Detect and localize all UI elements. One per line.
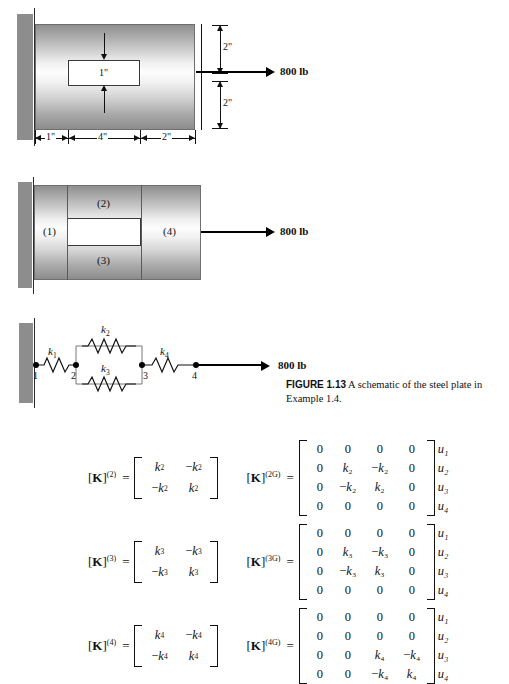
- matrix-bracket-left: [299, 440, 307, 516]
- matrix-cell: 0: [363, 581, 397, 600]
- cutout-arrow-line-upper: [104, 33, 105, 55]
- matrix-cell: k3: [142, 541, 176, 562]
- matrix-bracket-left: [134, 541, 142, 583]
- matrix-cell: 0: [307, 440, 333, 459]
- matrix-cell: 0: [363, 608, 397, 627]
- displacement-vector-3: u₁u₂u₃u₄: [438, 608, 449, 684]
- dim-label-bottom-2in: 2": [222, 98, 233, 108]
- global-stiffness-name-1: [K](2G): [246, 470, 280, 486]
- matrix-cell: −k₄: [363, 665, 397, 684]
- dim-chain-seg3-right: [189, 135, 195, 141]
- equals-sign-local-1: =: [122, 470, 129, 486]
- matrix-cell: −k₃: [363, 543, 397, 562]
- matrix-cell: −k₂: [333, 478, 363, 497]
- dim-ext-x3: [195, 130, 196, 144]
- equation-row-1: [K](2)=k2−k2−k2k2[K](2G)=00000k₂−k₂00−k₂…: [88, 440, 448, 516]
- equation-row-3: [K](4)=k4−k4−k4k4[K](4G)=0000000000k₄−k₄…: [88, 608, 448, 684]
- matrix-cell: 0: [307, 478, 333, 497]
- matrix-cell: k2: [176, 478, 210, 499]
- cutout-dimension-label: 1": [98, 68, 109, 78]
- spring-node-3: [139, 362, 145, 368]
- matrix-cell: 0: [363, 524, 397, 543]
- plate-cutout-middle: [67, 218, 141, 246]
- equals-sign-local-3: =: [122, 638, 129, 654]
- global-matrix-wrapper-2: 00000k₃−k₃00−k₃k₃00000u₁u₂u₃u₄: [299, 524, 449, 600]
- matrix-cell: −k3: [176, 541, 210, 562]
- matrix-cell: 0: [307, 646, 333, 665]
- matrix-cell: 0: [397, 581, 427, 600]
- matrix-cells: 00000k₃−k₃00−k₃k₃00000: [307, 524, 427, 600]
- matrix-cell: 0: [333, 665, 363, 684]
- matrix-cell: 0: [397, 459, 427, 478]
- load-label-middle: 800 lb: [280, 226, 308, 237]
- matrix-cell: 0: [307, 581, 333, 600]
- matrix-cell: k₄: [363, 646, 397, 665]
- element-label-2: (2): [97, 198, 110, 209]
- matrix-cell: 0: [307, 543, 333, 562]
- dim-label-seg1: 1": [45, 132, 56, 142]
- matrix-cell: −k4: [176, 625, 210, 646]
- matrix-bracket-left: [134, 625, 142, 667]
- fixed-wall-middle: [18, 182, 32, 288]
- diagram-middle-elements: (1) (2) (3) (4) 800 lb: [0, 160, 509, 300]
- spring-label-k4: k4: [160, 346, 169, 360]
- spring-k2-subscript: 2: [106, 329, 110, 338]
- dim-chain-seg1-right: [62, 135, 68, 141]
- matrix-cell: −k4: [142, 646, 176, 667]
- cutout-arrow-head-lower: [101, 85, 107, 91]
- matrix-bracket-right: [210, 457, 218, 499]
- spring-node-4: [193, 362, 199, 368]
- matrix-cell: 0: [363, 497, 397, 516]
- matrix-cell: 0: [397, 524, 427, 543]
- matrix-cell: 0: [333, 440, 363, 459]
- spring-network-svg: [0, 305, 300, 415]
- displacement-label: u₂: [438, 543, 449, 562]
- element-divider-1: [67, 185, 68, 280]
- spring-k3-subscript: 3: [106, 368, 110, 377]
- matrix-bracket-right: [210, 541, 218, 583]
- matrix-cell: k4: [176, 646, 210, 667]
- element-label-1: (1): [43, 226, 56, 237]
- matrix-cell: 0: [307, 562, 333, 581]
- matrix-cell: 0: [333, 524, 363, 543]
- dim-arrow-up-top: [217, 25, 223, 31]
- local-stiffness-matrix-1: k2−k2−k2k2: [134, 457, 218, 499]
- matrix-cell: 0: [397, 562, 427, 581]
- dim-chain-seg2-right: [134, 135, 140, 141]
- load-arrow-head-spring: [261, 361, 270, 371]
- dim-extension-right-top: [201, 24, 202, 130]
- spring-node-1: [33, 362, 39, 368]
- load-arrow-head-middle: [266, 227, 275, 237]
- matrix-cell: 0: [363, 440, 397, 459]
- matrix-cells: k3−k3−k3k3: [142, 541, 210, 583]
- matrix-cell: −k₃: [333, 562, 363, 581]
- matrix-bracket-right: [210, 625, 218, 667]
- matrix-cell: 0: [397, 543, 427, 562]
- displacement-label: u₄: [438, 665, 449, 684]
- node-label-4: 4: [192, 371, 197, 381]
- dim-label-seg3: 2": [161, 132, 172, 142]
- load-arrow-line-top: [196, 71, 268, 73]
- spring-label-k2: k2: [101, 324, 110, 338]
- displacement-label: u₃: [438, 478, 449, 497]
- displacement-label: u₁: [438, 608, 449, 627]
- matrix-bracket-left: [299, 524, 307, 600]
- load-label-top: 800 lb: [280, 66, 308, 77]
- equals-sign-global-2: =: [286, 554, 293, 570]
- displacement-label: u₄: [438, 581, 449, 600]
- global-stiffness-name-3: [K](4G): [246, 638, 280, 654]
- displacement-label: u₃: [438, 646, 449, 665]
- matrix-cell: 0: [307, 497, 333, 516]
- matrix-cells: 0000000000k₄−k₄00−k₄k₄: [307, 608, 427, 684]
- matrix-cell: k₂: [363, 478, 397, 497]
- matrix-bracket-left: [299, 608, 307, 684]
- dim-tick-bottom-low: [212, 128, 228, 129]
- matrix-cell: −k3: [142, 562, 176, 583]
- spring-k4-subscript: 4: [165, 351, 169, 360]
- matrix-cell: k₃: [363, 562, 397, 581]
- matrix-cell: k₃: [333, 543, 363, 562]
- fixed-wall-top: [17, 14, 33, 140]
- dim-label-top-2in: 2": [222, 42, 233, 52]
- dim-chain-seg1-left: [35, 135, 41, 141]
- spring-k1-subscript: 1: [53, 351, 57, 360]
